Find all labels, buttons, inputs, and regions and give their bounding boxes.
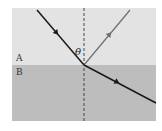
medium-a-region xyxy=(12,8,156,65)
angle-label: θ xyxy=(75,46,81,57)
medium-a-label: A xyxy=(15,53,23,63)
refraction-diagram: θ A B xyxy=(0,0,162,131)
medium-b-label: B xyxy=(16,67,23,77)
